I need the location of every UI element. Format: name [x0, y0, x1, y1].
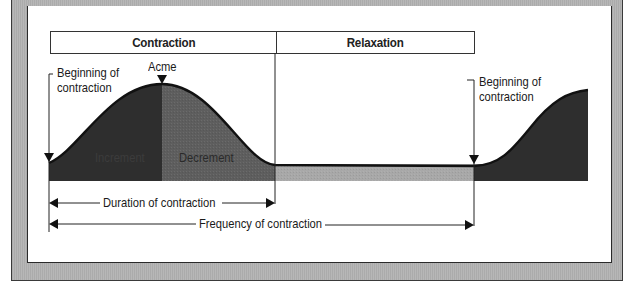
beginning-right-label-line2: contraction — [479, 90, 534, 104]
increment-label: Increment — [95, 151, 145, 165]
beginning-left-label-line1: Beginning of — [57, 66, 119, 80]
acme-arrow-icon — [157, 75, 167, 84]
contraction-curve-diagram — [0, 0, 637, 287]
beginning-left-label-line2: contraction — [57, 81, 112, 95]
frequency-label: Frequency of contraction — [199, 217, 322, 231]
right-beginning-arrow-icon — [469, 155, 479, 164]
decrement-label: Decrement — [179, 151, 234, 165]
beginning-right-label-line1: Beginning of — [479, 75, 541, 89]
duration-label: Duration of contraction — [103, 196, 215, 210]
acme-label: Acme — [148, 60, 177, 74]
